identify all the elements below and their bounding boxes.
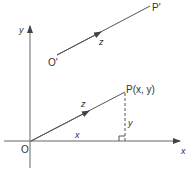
horizontal-component-label: x (74, 130, 80, 140)
x-axis-label: x (180, 146, 186, 156)
right-angle-icon (119, 136, 125, 141)
origin-prime-label: O' (48, 57, 58, 68)
vector-lower-arrowhead-icon (31, 111, 89, 141)
point-label: P(x, y) (126, 84, 155, 95)
vector-upper-arrowhead-icon (57, 32, 101, 55)
y-axis-label: y (18, 25, 24, 35)
vector-diagram: y x O O' P' P(x, y) z z x y (0, 0, 189, 175)
origin-label: O (21, 144, 29, 155)
vertical-component-label: y (127, 118, 133, 128)
vector-lower-label: z (80, 99, 86, 109)
vector-upper-label: z (98, 37, 104, 47)
point-prime-label: P' (152, 2, 161, 13)
